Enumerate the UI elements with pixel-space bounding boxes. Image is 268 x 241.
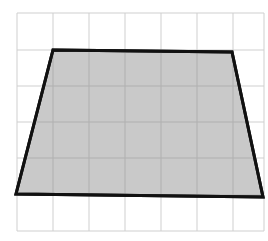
trapezoid-grid-diagram	[0, 0, 268, 241]
grid-canvas	[0, 0, 268, 241]
inner-grid-lines	[17, 13, 264, 231]
